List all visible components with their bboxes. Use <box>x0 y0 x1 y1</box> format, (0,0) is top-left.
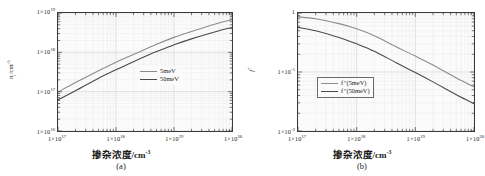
legend-swatch-50mev <box>140 79 157 80</box>
ytick-label: 1 <box>257 9 295 15</box>
ytick-label: 1×1017 <box>17 89 55 95</box>
ytick-label: 1×1019 <box>17 9 55 15</box>
panel-caption-a: (a) <box>10 161 232 171</box>
legend-swatch-fplus-50mev <box>321 91 338 92</box>
legend-item: f⁺(50meV) <box>321 88 370 94</box>
xtick-label: 1×1018 <box>107 136 125 142</box>
xtick-label: 1×1019 <box>407 136 425 142</box>
xtick-label: 1×1018 <box>347 136 365 142</box>
legend-label: f⁺(50meV) <box>341 88 370 94</box>
xtick-label: 1×1017 <box>288 136 306 142</box>
xaxis-title-b: 掺杂浓度/cm-3 <box>251 147 473 161</box>
plot-area-b <box>297 12 475 132</box>
legend-item: 5meV <box>140 68 179 74</box>
legend-a: 5meV 50meV <box>137 66 182 85</box>
ytick-label: 1×1018 <box>17 49 55 55</box>
chart-panel-a: 1×1019 1×1018 1×1017 1×1016 1×1017 1×101… <box>0 0 242 176</box>
figure-root: 1×1019 1×1018 1×1017 1×1016 1×1017 1×101… <box>0 0 485 176</box>
xaxis-title-a: 掺杂浓度/cm-3 <box>10 147 232 161</box>
legend-item: f⁺(5meV) <box>321 80 370 86</box>
legend-item: 50meV <box>140 76 179 82</box>
ytick-label: 1×10-1 <box>257 69 295 75</box>
xtick-label: 1×1020 <box>466 136 484 142</box>
yaxis-title-b: f+ <box>248 50 255 90</box>
legend-label: 50meV <box>160 76 179 82</box>
legend-swatch-fplus-5mev <box>321 83 338 84</box>
legend-label: f⁺(5meV) <box>341 80 366 86</box>
xtick-label: 1×1020 <box>224 136 242 142</box>
xtick-label: 1×1017 <box>48 136 66 142</box>
legend-label: 5meV <box>160 68 176 74</box>
legend-swatch-5mev <box>140 71 157 72</box>
chart-panel-b: 1 1×10-1 1×10-2 1×1017 1×1018 1×1019 1×1… <box>243 0 485 176</box>
yaxis-title-a: ni/cm-3 <box>7 50 14 90</box>
curves-b <box>298 13 474 131</box>
xtick-label: 1×1019 <box>165 136 183 142</box>
legend-b: f⁺(5meV) f⁺(50meV) <box>317 77 374 98</box>
panel-caption-b: (b) <box>251 161 473 171</box>
